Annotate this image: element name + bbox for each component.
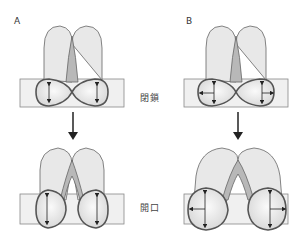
- panel-b-open: [184, 148, 288, 230]
- diagram-canvas: [0, 0, 304, 244]
- right-vessel: [78, 190, 108, 228]
- panel-a-closed: [20, 26, 124, 107]
- panel-a-open: [20, 148, 124, 228]
- left-vessel: [36, 190, 66, 228]
- panel-b-closed: [184, 26, 288, 107]
